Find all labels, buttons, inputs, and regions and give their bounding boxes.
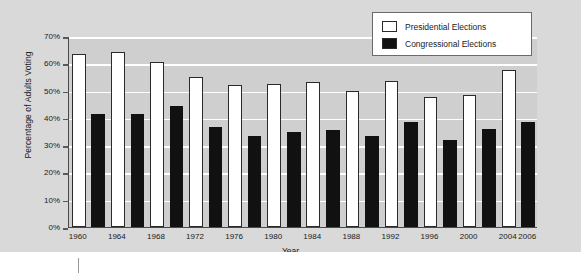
y-axis-tick-30: 30% <box>30 141 60 150</box>
y-axis-tick-mark <box>63 228 68 230</box>
bar-2006 <box>521 122 535 227</box>
bar-1964 <box>111 52 125 227</box>
x-axis-tick-2000: 2000 <box>453 232 485 241</box>
chart-legend: Presidential Elections Congressional Ele… <box>372 12 532 56</box>
bottom-margin-band <box>0 252 581 280</box>
x-axis-tick-1988: 1988 <box>335 232 367 241</box>
bar-1982 <box>287 132 301 228</box>
x-axis-tick-1996: 1996 <box>414 232 446 241</box>
bar-1968 <box>150 62 164 227</box>
x-axis-tick-1964: 1964 <box>101 232 133 241</box>
bar-1992 <box>385 81 399 227</box>
x-axis-tick-1960: 1960 <box>62 232 94 241</box>
bar-1974 <box>209 127 223 227</box>
bar-1980 <box>267 84 281 227</box>
gridline <box>69 92 537 94</box>
bar-1978 <box>248 136 262 227</box>
bar-1986 <box>326 130 340 227</box>
legend-item-congressional: Congressional Elections <box>382 35 531 52</box>
y-axis-tick-20: 20% <box>30 168 60 177</box>
bar-1990 <box>365 136 379 227</box>
legend-item-presidential: Presidential Elections <box>382 18 531 35</box>
y-axis-tick-70: 70% <box>30 32 60 41</box>
bar-1960 <box>72 54 86 227</box>
y-axis-tick-0: 0% <box>30 223 60 232</box>
bar-1996 <box>424 97 438 227</box>
bottom-tick-mark <box>78 258 79 273</box>
legend-label-congressional: Congressional Elections <box>405 39 496 49</box>
plot-inner <box>69 37 537 227</box>
x-axis-tick-1984: 1984 <box>296 232 328 241</box>
bar-2004 <box>502 70 516 227</box>
legend-swatch-congressional <box>382 38 397 49</box>
legend-label-presidential: Presidential Elections <box>405 22 486 32</box>
bar-1998 <box>443 140 457 227</box>
bar-1994 <box>404 122 418 227</box>
x-axis-tick-1972: 1972 <box>179 232 211 241</box>
y-axis-tick-40: 40% <box>30 114 60 123</box>
plot-area <box>68 37 537 228</box>
x-axis-tick-1992: 1992 <box>374 232 406 241</box>
x-axis-tick-1968: 1968 <box>140 232 172 241</box>
y-axis-tick-60: 60% <box>30 59 60 68</box>
y-axis-tick-10: 10% <box>30 196 60 205</box>
gridline <box>69 64 537 66</box>
bar-1966 <box>131 114 145 227</box>
y-axis-tick-50: 50% <box>30 87 60 96</box>
legend-swatch-presidential <box>382 21 397 32</box>
x-axis-tick-1976: 1976 <box>218 232 250 241</box>
bar-2000 <box>463 95 477 227</box>
bar-2002 <box>482 129 496 227</box>
bar-1976 <box>228 85 242 227</box>
bar-1988 <box>346 91 360 227</box>
bar-1962 <box>91 114 105 227</box>
bar-1984 <box>306 82 320 227</box>
x-axis-tick-2006: 2006 <box>511 232 543 241</box>
chart-figure: Percentage of Adults Voting 0%10%20%30%4… <box>0 0 581 280</box>
bar-1972 <box>189 77 203 227</box>
x-axis-tick-1980: 1980 <box>257 232 289 241</box>
bar-1970 <box>170 106 184 227</box>
